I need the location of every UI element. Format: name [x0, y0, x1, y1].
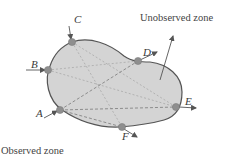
- arrow-e-out: [179, 107, 196, 108]
- observed-zone-label: Observed zone: [1, 146, 64, 157]
- point-b-label: B: [31, 59, 38, 70]
- region-blob: [47, 40, 182, 127]
- point-e-label: E: [185, 96, 192, 107]
- arrow-c-in: [69, 26, 71, 39]
- point-d-label: D: [143, 47, 151, 58]
- point-c-label: C: [74, 14, 81, 25]
- point-a-marker: [56, 106, 63, 113]
- arrow-a-in: [44, 111, 57, 118]
- point-a-label: A: [36, 108, 43, 119]
- diagram-canvas: [0, 0, 226, 160]
- point-d-marker: [134, 57, 141, 64]
- unobserved-zone-label: Unobserved zone: [140, 13, 213, 24]
- point-c-marker: [68, 38, 75, 45]
- point-f-label: F: [122, 131, 129, 142]
- point-e-marker: [172, 103, 179, 110]
- point-b-marker: [44, 66, 51, 73]
